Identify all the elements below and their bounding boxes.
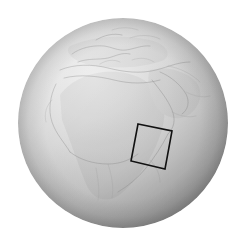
globe-surface xyxy=(18,18,228,228)
globe-viewer: Globe region selection xyxy=(0,0,246,244)
globe-canvas[interactable] xyxy=(0,0,246,244)
globe-limb-darkening xyxy=(18,18,228,228)
